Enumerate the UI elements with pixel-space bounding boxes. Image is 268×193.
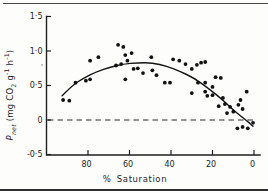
data-point (203, 90, 207, 94)
data-point (149, 55, 153, 59)
data-point (241, 107, 245, 111)
data-point (171, 57, 175, 61)
data-point (196, 81, 200, 85)
data-point (195, 63, 199, 67)
axis-spines (47, 17, 261, 156)
data-point (211, 93, 215, 97)
data-point (199, 61, 203, 65)
data-point (236, 126, 240, 130)
data-point (239, 98, 243, 102)
data-point (163, 81, 167, 85)
y-tick-label: 0·5 (30, 81, 43, 90)
x-tick-label: 20 (206, 160, 216, 169)
data-point (130, 51, 134, 55)
data-point (141, 71, 145, 75)
data-point (237, 103, 241, 107)
data-point (121, 45, 125, 49)
y-tick-label: 0 (37, 116, 42, 125)
data-point (214, 75, 218, 79)
data-point (251, 121, 255, 125)
fitted-curve (62, 63, 253, 126)
data-point (88, 59, 92, 63)
data-point (132, 67, 136, 71)
data-point (123, 53, 127, 57)
data-point (203, 81, 207, 85)
data-point (190, 67, 194, 71)
data-point (223, 102, 227, 106)
data-point (190, 91, 194, 95)
data-point (155, 73, 159, 77)
x-tick-label: 40 (164, 160, 174, 169)
data-point (246, 126, 250, 130)
data-point (61, 98, 65, 102)
x-tick-label: 80 (81, 160, 91, 169)
data-point (245, 90, 249, 94)
y-tick-label: -0·5 (27, 150, 43, 159)
x-axis-title: % Saturation (65, 174, 205, 184)
data-point (205, 94, 209, 98)
data-point (231, 110, 235, 114)
x-tick-label: 0 (250, 160, 255, 169)
data-point (116, 43, 120, 47)
data-point (228, 105, 232, 109)
data-point (241, 125, 245, 129)
axis-ticks (47, 17, 255, 156)
data-point (184, 62, 188, 66)
tick-labels: 1·51·00·50-0·5806040200 (27, 12, 255, 168)
axes (47, 17, 261, 156)
data-point (225, 111, 229, 115)
bottom-rule-divider (0, 189, 268, 191)
x-tick-label: 60 (123, 160, 133, 169)
plot-canvas: 1·51·00·50-0·5806040200 (0, 0, 268, 193)
y-tick-label: 1·0 (30, 47, 43, 56)
data-point (74, 81, 78, 85)
data-point (211, 85, 215, 89)
y-tick-label: 1·5 (30, 12, 43, 21)
data-point (203, 60, 207, 64)
data-point (114, 64, 118, 68)
data-point (221, 96, 225, 100)
data-point (150, 68, 154, 72)
data-point (168, 81, 172, 85)
ylabel-variable: P (5, 135, 15, 140)
scatter-plot-figure: 1·51·00·50-0·5806040200 Pnet (mg CO2 g-1… (0, 0, 268, 193)
data-point (126, 59, 130, 63)
data-point (67, 99, 71, 103)
data-point (219, 76, 223, 80)
ink-speck-artifact (41, 64, 43, 66)
data-points (61, 43, 255, 130)
data-point (177, 59, 181, 63)
data-point (123, 77, 127, 81)
data-point (84, 79, 88, 83)
data-point (88, 77, 92, 81)
data-point (217, 104, 221, 108)
data-point (119, 62, 123, 66)
data-point (97, 55, 101, 59)
fitted-curve-path (62, 63, 253, 126)
data-point (136, 66, 140, 70)
y-axis-title: Pnet (mg CO2 g-1 h-1) (3, 25, 19, 165)
